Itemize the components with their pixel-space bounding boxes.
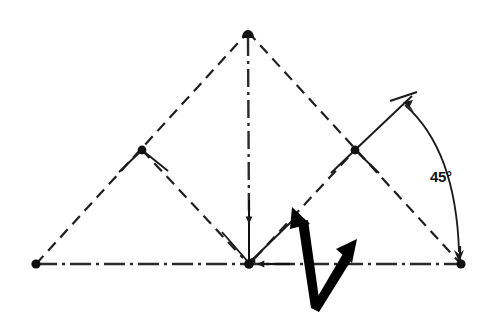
vertex-dot-center-base xyxy=(244,259,254,269)
diagram-background xyxy=(0,0,487,329)
vertex-dot-left-base xyxy=(31,259,40,268)
diagram-svg: 45° xyxy=(0,0,487,329)
vertex-dot-right-mid xyxy=(351,146,360,155)
angle-label-45: 45° xyxy=(430,168,452,185)
vertex-dot-left-mid xyxy=(138,146,147,155)
vertex-dot-right-base xyxy=(456,259,465,268)
geometric-diagram-canvas: 45° xyxy=(0,0,487,329)
